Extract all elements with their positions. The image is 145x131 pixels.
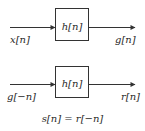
lti-system-diagram: x[n] h[n] g[n] g[−n] h[n] r[n] s[n] = r[… (0, 0, 145, 131)
bottom-input-label: g[−n] (7, 92, 36, 102)
diagram-graphics (0, 0, 145, 131)
top-output-label: g[n] (115, 35, 136, 45)
time-reversal-equation: s[n] = r[−n] (0, 114, 145, 124)
top-input-label: x[n] (10, 35, 30, 45)
bottom-output-label: r[n] (121, 92, 140, 102)
top-block-label: h[n] (55, 22, 89, 32)
bottom-block-label: h[n] (55, 79, 89, 89)
